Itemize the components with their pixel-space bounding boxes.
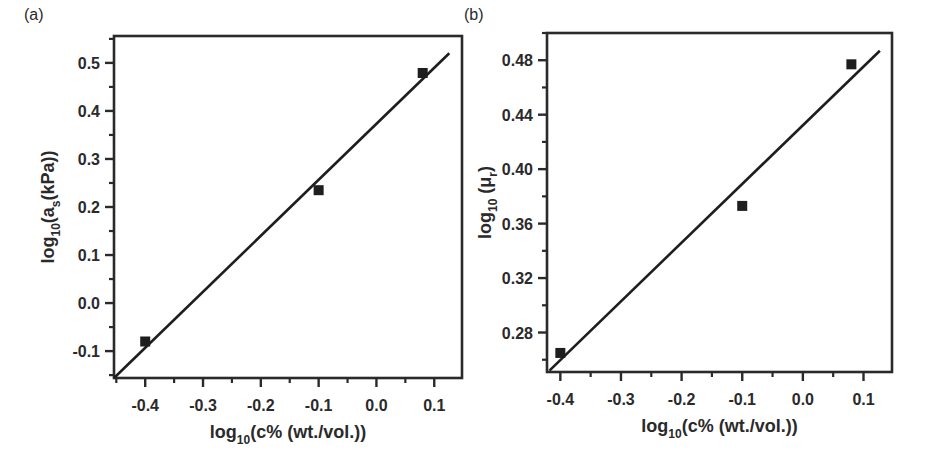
fit-line — [549, 51, 879, 371]
y-tick-label: 0.40 — [502, 161, 533, 178]
x-tick-label: -0.1 — [728, 391, 756, 408]
x-tick-label: 0.1 — [423, 397, 445, 414]
y-tick-label: 0.2 — [78, 199, 100, 216]
y-axis-title: log10 (μr) — [475, 166, 500, 239]
figure-canvas: (a)-0.4-0.3-0.2-0.10.00.1-0.10.00.10.20.… — [0, 0, 928, 468]
x-tick-label: -0.3 — [607, 391, 635, 408]
y-tick-label: 0.1 — [78, 247, 100, 264]
y-tick-label: -0.1 — [72, 343, 100, 360]
x-tick-label: -0.2 — [668, 391, 696, 408]
data-point-square — [846, 59, 856, 69]
y-tick-label: 0.36 — [502, 216, 533, 233]
y-tick-label: 0.5 — [78, 55, 100, 72]
y-tick-label: 0.0 — [78, 295, 100, 312]
x-axis-title: log10(c% (wt./vol.)) — [641, 416, 797, 441]
y-tick-label: 0.44 — [502, 107, 533, 124]
y-tick-label: 0.48 — [502, 52, 533, 69]
data-point-square — [418, 68, 428, 78]
x-tick-label: -0.1 — [305, 397, 333, 414]
data-point-square — [314, 185, 324, 195]
x-tick-label: -0.3 — [189, 397, 217, 414]
y-tick-label: 0.28 — [502, 325, 533, 342]
y-axis-title: log10(as(kPa)) — [38, 150, 63, 263]
fit-line — [114, 53, 449, 378]
x-tick-label: 0.0 — [365, 397, 387, 414]
panel-label: (b) — [464, 6, 484, 23]
data-point-square — [555, 348, 565, 358]
x-tick-label: -0.2 — [247, 397, 275, 414]
data-point-square — [737, 201, 747, 211]
y-tick-label: 0.4 — [78, 103, 100, 120]
chart-panel-b: (b)-0.4-0.3-0.2-0.10.00.10.280.320.360.4… — [464, 6, 892, 441]
x-tick-label: -0.4 — [131, 397, 159, 414]
x-tick-label: -0.4 — [547, 391, 575, 408]
data-point-square — [140, 336, 150, 346]
figure: (a)-0.4-0.3-0.2-0.10.00.1-0.10.00.10.20.… — [0, 0, 928, 468]
x-tick-label: 0.1 — [852, 391, 874, 408]
panel-label: (a) — [24, 6, 44, 23]
y-tick-label: 0.32 — [502, 270, 533, 287]
x-tick-label: 0.0 — [792, 391, 814, 408]
y-tick-label: 0.3 — [78, 151, 100, 168]
x-axis-title: log10(c% (wt./vol.)) — [210, 422, 366, 447]
chart-panel-a: (a)-0.4-0.3-0.2-0.10.00.1-0.10.00.10.20.… — [24, 6, 462, 447]
